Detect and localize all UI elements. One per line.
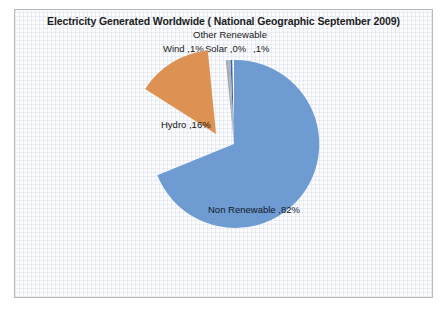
pie-chart-svg: [15, 10, 433, 298]
chart-frame: Electricity Generated Worldwide ( Nation…: [14, 9, 433, 298]
screenshot-root: Electricity Generated Worldwide ( Nation…: [0, 0, 448, 311]
slice-label-hydro: Hydro ,16%: [161, 119, 211, 130]
slice-label-non-renewable: Non Renewable ,82%: [208, 204, 300, 215]
pie-chart: Hydro ,16% Non Renewable ,82%: [15, 10, 433, 298]
